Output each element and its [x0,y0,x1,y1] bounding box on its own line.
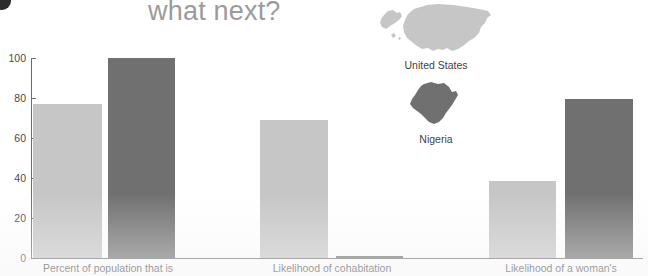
bar-us-1[interactable] [260,120,328,258]
legend-label-nigeria: Nigeria [384,133,488,145]
nigeria-map-icon [400,80,472,132]
x-axis-line [31,258,643,259]
legend-item-nigeria[interactable]: Nigeria [384,80,488,145]
legend-label-united-states: United States [372,59,500,71]
usa-map-icon [375,2,497,58]
x-label-1: Likelihood of cohabitation [258,262,406,274]
x-label-0: Percent of population that is [34,262,182,274]
bar-us-2[interactable] [489,181,556,258]
legend-item-united-states[interactable]: United States [372,2,500,71]
bar-nigeria-0[interactable] [108,58,175,258]
bar-chart: 100 80 60 40 20 0 Percent of population … [0,0,648,276]
bars-layer [0,0,648,258]
bar-us-0[interactable] [33,104,102,258]
chart-page: what next? 100 80 60 40 20 0 Percent of … [0,0,648,276]
bar-nigeria-1[interactable] [336,256,403,258]
x-label-2: Likelihood of a woman's [487,262,635,274]
bar-nigeria-2[interactable] [565,99,633,258]
